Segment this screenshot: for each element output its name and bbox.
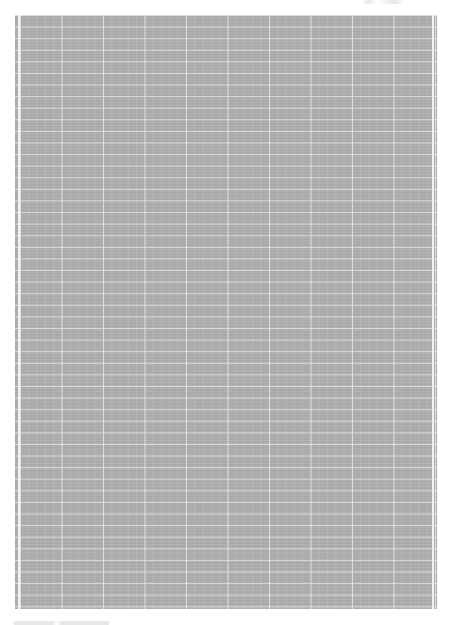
clipped-header-text	[362, 0, 422, 4]
grid-left-border	[18, 15, 20, 609]
clipped-footer-text	[14, 621, 109, 625]
scanned-page	[0, 0, 449, 625]
grid-paper-area	[15, 15, 437, 609]
grid-right-border	[432, 15, 434, 609]
